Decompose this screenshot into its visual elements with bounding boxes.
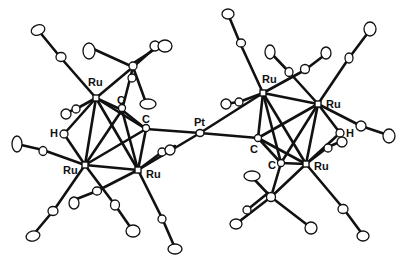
ortep-diagram: Ru Ru Ru C C H Pt Ru Ru Ru C C H xyxy=(0,0,402,262)
molecular-structure-figure: Ru Ru Ru C C H Pt Ru Ru Ru C C H xyxy=(0,0,402,262)
label-ru-right-top: Ru xyxy=(262,73,277,85)
label-ru-right-right: Ru xyxy=(326,98,341,110)
left-ru3-cluster xyxy=(17,30,200,248)
label-h-left: H xyxy=(50,127,58,139)
label-c-left-bridge: C xyxy=(142,113,150,125)
label-pt: Pt xyxy=(194,116,205,128)
label-ru-left-bottom: Ru xyxy=(63,164,78,176)
label-ru-left-top: Ru xyxy=(88,76,103,88)
atom-ellipsoids xyxy=(12,9,395,254)
label-ru-left-right: Ru xyxy=(146,168,161,180)
label-c-left-upper: C xyxy=(117,94,125,106)
label-c-right-bridge: C xyxy=(250,143,258,155)
label-c-right-lower: C xyxy=(268,159,276,171)
label-ru-right-bottom: Ru xyxy=(314,160,329,172)
label-h-right: H xyxy=(346,127,354,139)
